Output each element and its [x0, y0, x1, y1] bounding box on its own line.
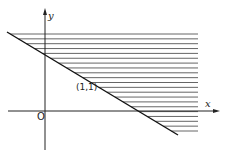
diagram: y x O (1,1) [0, 0, 228, 157]
region-plot [0, 0, 228, 157]
x-axis-arrow-icon [213, 109, 220, 113]
y-axis-arrow-icon [43, 8, 47, 15]
origin-label: O [37, 111, 45, 122]
x-axis-label: x [205, 98, 211, 109]
point-label: (1,1) [76, 82, 97, 92]
y-axis-label: y [48, 10, 54, 21]
